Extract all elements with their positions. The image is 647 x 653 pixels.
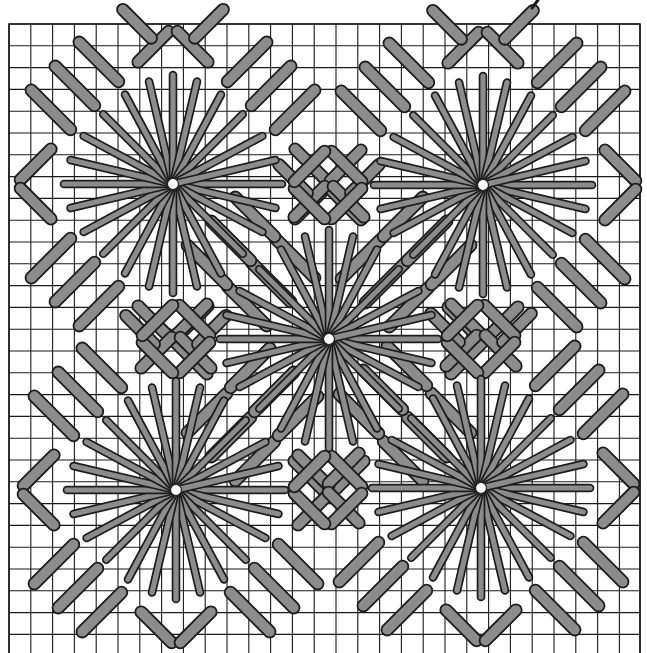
diagonal-stitch	[339, 543, 378, 582]
diagonal-stitch	[559, 566, 598, 605]
diagonal-stitch	[23, 494, 54, 525]
diagonal-stitch	[538, 43, 577, 82]
diagonal-stitch	[446, 610, 477, 641]
diagonal-stitch	[20, 188, 51, 219]
diagonal-stitch	[254, 568, 293, 607]
diagonal-stitch	[20, 149, 51, 180]
star-center-hole	[324, 334, 335, 345]
star-center-hole	[168, 179, 179, 190]
diagonal-stitch	[180, 612, 211, 643]
diagonal-stitch	[603, 492, 634, 523]
star-center-hole	[476, 483, 487, 494]
diagonal-stitch	[561, 263, 600, 302]
diagonal-stitch	[34, 545, 73, 584]
diagonal-stitch	[31, 90, 70, 129]
diagonal-stitch	[141, 612, 172, 643]
diagonal-stitch	[559, 370, 598, 409]
diagonal-stitch	[536, 590, 575, 629]
diagonal-stitch	[58, 568, 97, 607]
diagonal-stitch	[387, 590, 426, 629]
diagonal-stitch	[363, 566, 402, 605]
diagonal-stitch	[228, 42, 267, 81]
star-center-hole	[478, 180, 489, 191]
diagonal-stitch	[485, 610, 516, 641]
diagonal-stitch	[583, 543, 622, 582]
star-center-hole	[171, 485, 182, 496]
diagonal-stitch	[79, 42, 118, 81]
stitch-chart	[0, 0, 647, 653]
diagonal-stitch	[389, 43, 428, 82]
diagonal-stitch	[561, 67, 600, 106]
diagonal-stitch	[278, 545, 317, 584]
diagonal-stitch	[365, 67, 404, 106]
diagonal-stitch	[536, 346, 575, 385]
diagonal-stitch	[31, 239, 70, 278]
diagonal-stitch	[79, 286, 118, 325]
diagonal-stitch	[585, 240, 624, 279]
diagonal-stitch	[58, 372, 97, 411]
diagonal-stitch	[82, 348, 121, 387]
diagonal-stitch	[603, 453, 634, 484]
diagonal-stitch	[583, 394, 622, 433]
diagonal-stitch	[605, 189, 636, 220]
diagonal-stitch	[275, 90, 314, 129]
